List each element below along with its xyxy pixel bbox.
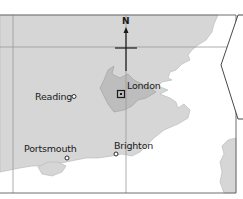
city-label-reading: Reading	[35, 92, 72, 102]
land-mass-france	[220, 138, 236, 193]
compass-north-label: N	[122, 17, 130, 26]
city-marker-portsmouth	[65, 156, 69, 160]
map: N London Reading Portsmouth Brighton	[0, 0, 243, 199]
city-marker-brighton	[114, 152, 118, 156]
city-label-portsmouth: Portsmouth	[24, 144, 77, 154]
city-label-brighton: Brighton	[114, 141, 153, 151]
city-label-london: London	[127, 81, 161, 91]
city-marker-reading	[72, 95, 76, 99]
